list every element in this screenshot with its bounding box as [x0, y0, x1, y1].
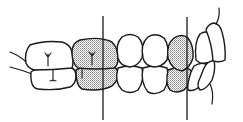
lower-gum-line-right: [210, 84, 213, 104]
lower-second-premolar: [117, 66, 143, 93]
lower-first-premolar: [142, 66, 168, 94]
upper-first-premolar: [142, 35, 168, 67]
dental-diagram: Dental occlusion lateral view: [0, 0, 243, 122]
upper-canine: [168, 36, 194, 72]
lower-gum-line-left: [10, 67, 32, 74]
upper-gum-line-left: [10, 52, 26, 62]
upper-first-molar: [72, 38, 118, 69]
upper-gum-line-right: [216, 8, 219, 24]
diagram-svg: [0, 0, 243, 122]
upper-second-premolar: [117, 35, 143, 68]
